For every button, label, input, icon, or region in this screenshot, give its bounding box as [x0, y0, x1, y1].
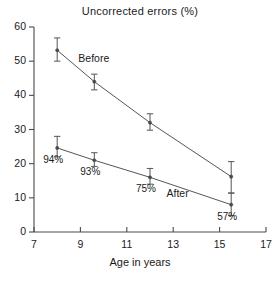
series-line-before [57, 50, 231, 176]
point-annotation: 94% [43, 154, 63, 165]
data-point-marker [93, 80, 96, 83]
data-point-marker [148, 176, 151, 179]
y-tick-label: 10 [0, 191, 26, 203]
x-tick-label: 15 [206, 238, 234, 250]
x-tick-label: 17 [252, 238, 280, 250]
y-tick-label: 0 [0, 225, 26, 237]
y-tick-label: 40 [0, 88, 26, 100]
series-annotation: After [166, 187, 188, 199]
y-tick-label: 60 [0, 20, 26, 32]
data-point-marker [93, 159, 96, 162]
data-point-marker [56, 49, 59, 52]
data-point-marker [230, 203, 233, 206]
x-tick-label: 13 [159, 238, 187, 250]
series-annotation: Before [78, 52, 109, 64]
point-annotation: 75% [136, 183, 156, 194]
x-tick-label: 9 [66, 238, 94, 250]
data-point-marker [230, 175, 233, 178]
x-tick-label: 7 [20, 238, 48, 250]
data-point-marker [148, 121, 151, 124]
y-tick-label: 20 [0, 157, 26, 169]
x-axis-title: Age in years [0, 256, 280, 268]
x-tick-label: 11 [113, 238, 141, 250]
point-annotation: 57% [217, 211, 237, 222]
y-tick-label: 30 [0, 123, 26, 135]
data-point-marker [56, 146, 59, 149]
point-annotation: 93% [80, 166, 100, 177]
chart-figure: Uncorrected errors (%) 0102030405060 791… [0, 0, 280, 281]
y-tick-label: 50 [0, 54, 26, 66]
x-tick-marks [34, 227, 266, 232]
y-tick-marks [29, 27, 34, 232]
